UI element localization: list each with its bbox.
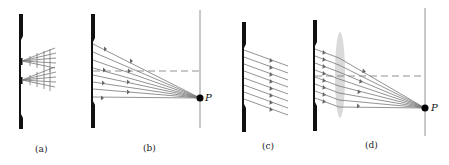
label-p-b: P — [204, 92, 212, 103]
rays-d — [315, 49, 425, 109]
panel-b: P (b) — [91, 10, 212, 153]
label-p-d: P — [430, 102, 438, 113]
point-p-b — [197, 95, 204, 102]
panel-a: (a) — [19, 14, 56, 154]
barrier-c — [242, 22, 246, 132]
point-p-d — [422, 105, 429, 112]
label-d: (d) — [365, 140, 378, 150]
fan-lower — [22, 67, 56, 91]
label-c: (c) — [262, 141, 274, 151]
label-b: (b) — [143, 143, 156, 153]
panel-d: P (d) — [313, 8, 438, 150]
panel-c: (c) — [242, 22, 288, 151]
barrier-a — [19, 14, 23, 129]
diffraction-figure: (a) P (b) — [0, 0, 449, 165]
barrier-d — [313, 20, 317, 131]
label-a: (a) — [35, 144, 47, 154]
lens-d — [335, 32, 345, 118]
rays-b — [93, 44, 200, 101]
rays-c — [244, 50, 288, 115]
